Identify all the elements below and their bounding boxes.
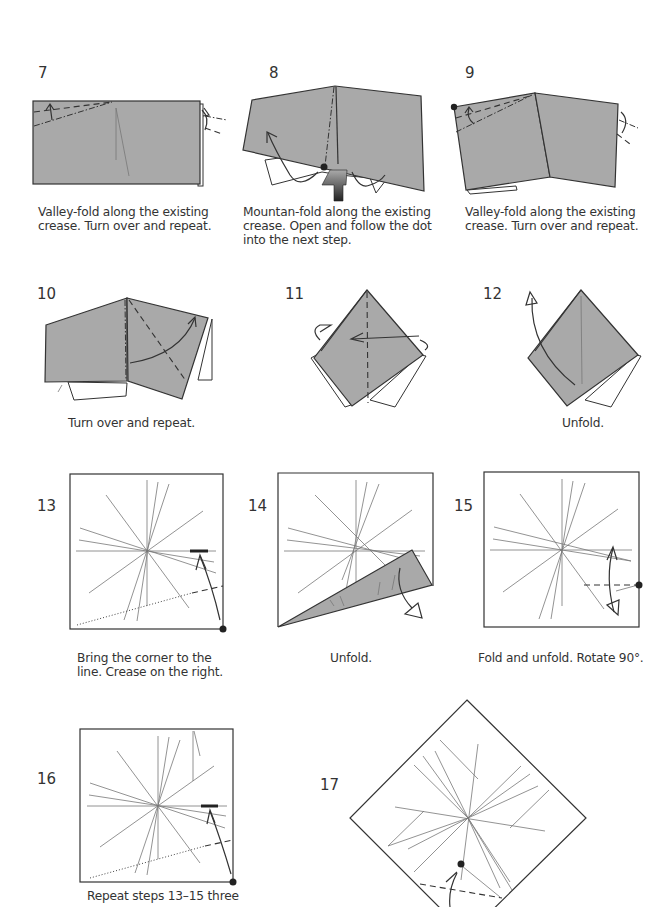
diamond-paper bbox=[350, 700, 586, 907]
step-17-diagram bbox=[0, 0, 668, 907]
reference-dot-icon bbox=[458, 861, 465, 868]
